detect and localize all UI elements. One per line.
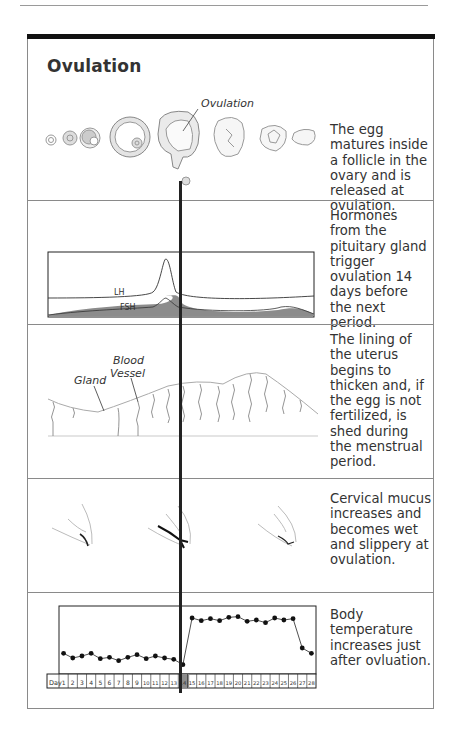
day-tick-label: 10 xyxy=(143,680,150,686)
temperature-point xyxy=(245,619,250,624)
day-tick-label: 21 xyxy=(244,680,251,686)
day-tick-label: 28 xyxy=(308,680,315,686)
fsh-label: FSH xyxy=(120,303,136,312)
day-tick-label: 26 xyxy=(290,680,297,686)
temperature-point xyxy=(217,618,222,623)
temperature-point xyxy=(300,646,305,651)
blood-vessel-label-1: Blood xyxy=(113,354,145,367)
temperature-point xyxy=(309,651,314,656)
ovulation-annotation: Ovulation xyxy=(201,97,254,110)
temperature-point xyxy=(236,614,241,619)
temperature-point xyxy=(107,655,112,660)
section-divider xyxy=(28,324,433,325)
panel-title: Ovulation xyxy=(47,56,141,76)
temperature-point xyxy=(226,615,231,620)
temperature-point xyxy=(153,654,158,659)
temperature-point xyxy=(190,616,195,621)
temperature-point xyxy=(162,656,167,661)
day-tick-label: 20 xyxy=(235,680,242,686)
day-tick-label: 5 xyxy=(98,679,102,686)
blood-vessel-label-2: Vessel xyxy=(110,367,145,380)
day-axis-label: Day xyxy=(49,679,62,687)
day-tick-label: 22 xyxy=(253,680,260,686)
temperature-point xyxy=(135,652,140,657)
follicle-illustration: Ovulation xyxy=(28,79,328,199)
section-divider xyxy=(28,200,433,201)
temperature-point xyxy=(98,656,103,661)
temperature-point xyxy=(89,651,94,656)
day-tick-label: 6 xyxy=(108,679,112,686)
hormones-description: Hormones from the pituitary gland trigge… xyxy=(330,208,432,330)
uterus-description: The lining of the uterus begins to thick… xyxy=(330,332,432,470)
day-tick-label: 7 xyxy=(117,679,121,686)
day-tick-label: 25 xyxy=(281,680,288,686)
temperature-point xyxy=(61,651,66,656)
gland-label: Gland xyxy=(74,374,107,387)
day-tick-label: 4 xyxy=(89,679,93,686)
panel-top-bar xyxy=(27,34,435,39)
day-tick-label: 11 xyxy=(152,680,159,686)
cervical-mucus-illustration xyxy=(38,504,318,564)
day-tick-label: 23 xyxy=(262,680,269,686)
day-tick-label: 15 xyxy=(189,680,196,686)
temperature-point xyxy=(208,616,213,621)
temperature-point xyxy=(125,655,130,660)
day-tick-label: 8 xyxy=(126,679,130,686)
day-tick-label: 19 xyxy=(225,680,232,686)
temperature-point xyxy=(70,656,75,661)
day-tick-label: 17 xyxy=(207,680,214,686)
temperature-point xyxy=(263,620,268,625)
day-tick-label: 13 xyxy=(170,680,177,686)
day-tick-label: 1 xyxy=(62,679,66,686)
temperature-point xyxy=(80,654,85,659)
temperature-point xyxy=(171,657,176,662)
mucus-description: Cervical mucus increases and becomes wet… xyxy=(330,491,432,567)
temperature-description: Body temperature increases just after ov… xyxy=(330,607,432,668)
temperature-point xyxy=(254,618,259,623)
temperature-point xyxy=(291,616,296,621)
day-tick-label: 3 xyxy=(80,679,84,686)
top-rule xyxy=(20,5,428,6)
temperature-point xyxy=(281,618,286,623)
uterus-lining-illustration: Gland Blood Vessel xyxy=(28,334,318,444)
day-tick-label: 9 xyxy=(135,679,139,686)
day-tick-label: 12 xyxy=(161,680,168,686)
temperature-point xyxy=(144,656,149,661)
day-tick-label: 16 xyxy=(198,680,205,686)
temperature-point xyxy=(272,616,277,621)
day-tick-label: 2 xyxy=(71,679,75,686)
lh-label: LH xyxy=(114,288,124,297)
section-divider xyxy=(28,592,433,593)
temperature-point xyxy=(199,618,204,623)
day-tick-label: 18 xyxy=(216,680,223,686)
hormone-chart: LH FSH xyxy=(48,252,318,322)
ovulation-marker-line xyxy=(179,181,182,693)
section-divider xyxy=(28,478,433,479)
day-tick-label: 27 xyxy=(299,680,306,686)
temperature-chart: 1234567891011121314151617181920212223242… xyxy=(40,606,330,696)
temperature-point xyxy=(116,658,121,663)
day-tick-label: 24 xyxy=(271,680,278,686)
ovulation-panel: Ovulation Ovulation The egg matures insi… xyxy=(27,34,434,709)
